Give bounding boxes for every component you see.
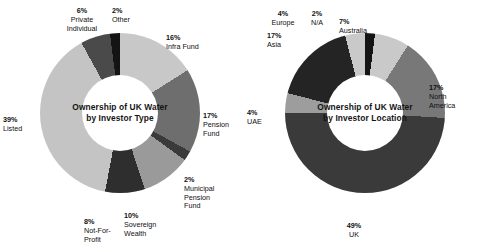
donut-center-label-investor-type: Ownership of UK Water by Investor Type (82, 75, 158, 151)
slice-label-other: 2% Other (112, 7, 130, 25)
chart-title-line2: by Investor Location (323, 113, 407, 124)
slice-name-asia: Asia (267, 41, 281, 50)
slice-label-uae: 4% UAE (247, 109, 262, 127)
chart-title-line2: by Investor Type (86, 113, 154, 124)
slice-name-uk: UK (339, 231, 369, 240)
slice-label-infra-fund: 16% Infra Fund (166, 34, 199, 52)
slice-name-listed: Listed (3, 125, 22, 134)
slice-name-australia: Australia (339, 27, 367, 36)
slice-name-private-individual-line2: Individual (58, 25, 106, 34)
slice-label-not-for-profit: 8% Not-For- Profit (84, 218, 111, 244)
slice-label-na: 2% N/A (305, 10, 329, 28)
slice-name-sovereign-wealth-line2: Wealth (124, 230, 156, 239)
chart-title-line1: Ownership of UK Water (317, 102, 412, 113)
slice-name-europe: Europe (265, 19, 301, 28)
slice-label-private-individual: 6% Private Individual (58, 7, 106, 33)
slice-label-asia: 17% Asia (267, 32, 281, 50)
slice-label-pension-fund: 17% Pension Fund (203, 112, 229, 138)
slice-name-municipal-line3: Fund (184, 202, 214, 211)
slice-label-uk: 49% UK (339, 222, 369, 240)
donut-chart-investor-type: Ownership of UK Water by Investor Type (40, 33, 200, 193)
slice-name-na: N/A (305, 19, 329, 28)
chart-investor-type: Ownership of UK Water by Investor Type 6… (0, 0, 243, 251)
slice-label-north-america: 17% North America (429, 84, 455, 110)
slice-name-infra-fund: Infra Fund (166, 43, 199, 52)
slice-label-municipal-pension-fund: 2% Municipal Pension Fund (184, 176, 214, 211)
slice-label-europe: 4% Europe (265, 10, 301, 28)
slice-name-pension-fund-line2: Fund (203, 130, 229, 139)
slice-label-australia: 7% Australia (339, 18, 367, 36)
slice-label-sovereign-wealth: 10% Sovereign Wealth (124, 212, 156, 238)
donut-center-label-investor-location: Ownership of UK Water by Investor Locati… (327, 75, 403, 151)
slice-name-not-for-profit-line2: Profit (84, 236, 111, 245)
chart-investor-location: Ownership of UK Water by Investor Locati… (243, 0, 485, 251)
slice-name-other: Other (112, 16, 130, 25)
slice-label-listed: 39% Listed (3, 116, 22, 134)
chart-title-line1: Ownership of UK Water (72, 102, 167, 113)
slice-name-uae: UAE (247, 118, 262, 127)
donut-chart-investor-location: Ownership of UK Water by Investor Locati… (285, 33, 445, 193)
slice-name-north-america-line2: America (429, 102, 455, 111)
